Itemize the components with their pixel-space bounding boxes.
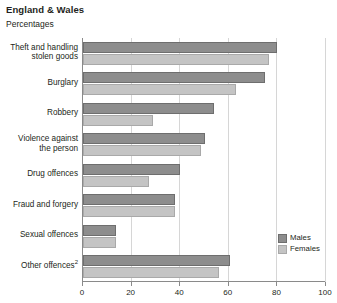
category-label: Violence againstthe person <box>0 134 78 153</box>
bar-females <box>83 54 269 65</box>
legend-item-males: Males <box>278 233 334 243</box>
legend-swatch-males-icon <box>278 234 287 243</box>
y-axis-line <box>82 38 83 282</box>
x-axis-tick <box>179 282 180 286</box>
legend-label-males: Males <box>290 233 311 243</box>
x-axis-tick-label: 0 <box>80 288 84 297</box>
bar-females <box>83 84 236 95</box>
x-axis-tick-label: 100 <box>318 288 331 297</box>
bar-females <box>83 237 116 248</box>
x-axis-tick <box>82 282 83 286</box>
bar-females <box>83 267 219 278</box>
category-label: Drug offences <box>0 169 78 179</box>
category-label: Theft and handlingstolen goods <box>0 43 78 62</box>
bar-females <box>83 206 175 217</box>
x-axis-tick <box>228 282 229 286</box>
category-label: Other offences2 <box>0 261 78 271</box>
x-axis-tick <box>276 282 277 286</box>
x-axis-tick <box>325 282 326 286</box>
x-axis-tick <box>131 282 132 286</box>
legend-label-females: Females <box>290 244 320 254</box>
bar-males <box>83 72 265 83</box>
chart-legend: Males Females <box>278 233 334 255</box>
bar-females <box>83 176 149 187</box>
bar-females <box>83 115 153 126</box>
category-label: Robbery <box>0 108 78 118</box>
chart-container: England & Wales Percentages Theft and ha… <box>0 0 337 303</box>
bar-males <box>83 225 116 236</box>
legend-swatch-females-icon <box>278 245 287 254</box>
chart-title: England & Wales <box>6 4 84 15</box>
x-axis-line <box>82 281 325 282</box>
bar-males <box>83 164 180 175</box>
footnote-marker: 2 <box>75 259 78 265</box>
category-label-column: Theft and handlingstolen goodsBurglaryRo… <box>0 38 78 282</box>
bar-males <box>83 194 175 205</box>
legend-item-females: Females <box>278 244 334 254</box>
bar-males <box>83 103 214 114</box>
category-label: Fraud and forgery <box>0 200 78 210</box>
bar-males <box>83 255 230 266</box>
category-label: Burglary <box>0 78 78 88</box>
x-axis-tick-label: 40 <box>175 288 184 297</box>
chart-subtitle: Percentages <box>6 19 54 29</box>
x-axis-tick-label: 20 <box>126 288 135 297</box>
category-label: Sexual offences <box>0 230 78 240</box>
bar-females <box>83 145 201 156</box>
bar-males <box>83 133 205 144</box>
x-axis-tick-label: 60 <box>223 288 232 297</box>
x-axis-tick-label: 80 <box>272 288 281 297</box>
bar-males <box>83 42 277 53</box>
